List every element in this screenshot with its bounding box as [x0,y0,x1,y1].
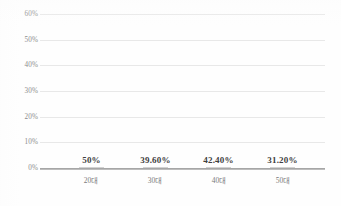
bar-value-label: 39.60% [140,155,170,165]
gridline-10 [40,142,325,143]
gridline-30 [40,91,325,92]
bar[interactable] [206,167,231,168]
gridline-20 [40,117,325,118]
x-axis: 20대 30대 40대 50대 [40,174,325,190]
x-axis-line [40,168,325,169]
x-tick-label-20s: 20대 [61,174,121,185]
y-tick-label: 30% [4,87,38,95]
bar[interactable] [270,167,295,168]
y-tick-label: 20% [4,113,38,121]
bar-chart: 60% 50% 40% 30% 20% 10% 0% 50% 39.60% 42… [0,0,341,206]
x-tick-label-50s: 50대 [253,174,313,185]
x-tick-label-30s: 30대 [125,174,185,185]
bar-value-label: 50% [82,155,101,165]
y-tick-label: 10% [4,138,38,146]
y-tick-label: 50% [4,36,38,44]
y-tick-label: 60% [4,10,38,18]
y-tick-label: 0% [4,164,38,172]
bar[interactable] [79,167,104,168]
bar-value-label: 31.20% [267,155,297,165]
gridline-60 [40,14,325,15]
y-tick-label: 40% [4,61,38,69]
plot-area: 50% 39.60% 42.40% 31.20% [40,14,325,168]
bar[interactable] [143,167,168,168]
gridline-50 [40,40,325,41]
y-axis: 60% 50% 40% 30% 20% 10% 0% [0,14,38,168]
x-tick-label-40s: 40대 [189,174,249,185]
bar-value-label: 42.40% [203,155,233,165]
gridline-40 [40,65,325,66]
